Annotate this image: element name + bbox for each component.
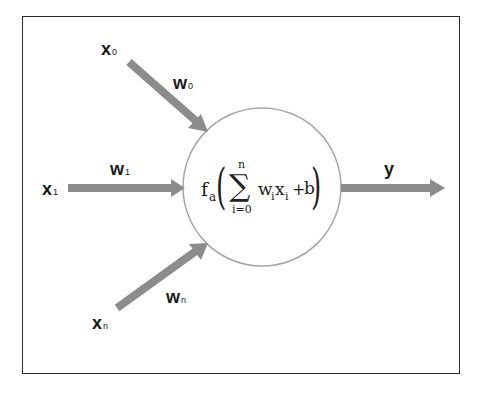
neuron-diagram: x0 w0 x1 w1 xn wn y f a ( n ∑ i=0 w i x … bbox=[0, 0, 481, 395]
input-x1-letter: x bbox=[42, 179, 52, 199]
output-arrow-y bbox=[341, 179, 445, 197]
input-arrow-x1 bbox=[68, 179, 185, 197]
input-label-x1: x1 bbox=[42, 180, 58, 198]
formula-function: f bbox=[201, 178, 208, 200]
weight-w1-letter: w bbox=[110, 159, 124, 179]
input-x0-subscript: 0 bbox=[112, 47, 117, 57]
formula-weight-subscript: i bbox=[271, 190, 275, 203]
weight-label-wn: wn bbox=[166, 288, 186, 306]
input-xn-subscript: n bbox=[103, 321, 108, 331]
weight-label-w1: w1 bbox=[110, 160, 130, 178]
weight-label-w0: w0 bbox=[173, 74, 193, 92]
formula-open-paren: ( bbox=[216, 158, 226, 214]
input-label-xn: xn bbox=[92, 314, 108, 332]
input-x0-letter: x bbox=[101, 39, 111, 59]
formula-sum-symbol: ∑ bbox=[229, 168, 250, 203]
weight-w0-letter: w bbox=[173, 73, 187, 93]
formula-input: x bbox=[275, 179, 285, 199]
weight-w1-subscript: 1 bbox=[125, 167, 130, 177]
input-arrow-x0 bbox=[129, 62, 208, 132]
formula-sum-lower: i=0 bbox=[232, 203, 252, 216]
input-x1-subscript: 1 bbox=[53, 187, 58, 197]
input-xn-letter: x bbox=[92, 313, 102, 333]
weight-w0-subscript: 0 bbox=[188, 81, 193, 91]
weight-wn-letter: w bbox=[166, 287, 180, 307]
output-y-letter: y bbox=[384, 159, 394, 179]
formula-input-subscript: i bbox=[285, 190, 289, 203]
formula-close-paren: ) bbox=[311, 158, 321, 214]
input-arrow-xn bbox=[117, 243, 208, 308]
output-label-y: y bbox=[384, 160, 394, 178]
weight-wn-subscript: n bbox=[181, 295, 186, 305]
input-label-x0: x0 bbox=[101, 40, 117, 58]
